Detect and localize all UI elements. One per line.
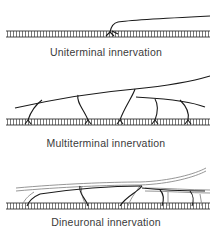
- innervation-diagram: [0, 0, 212, 229]
- uniterminal-panel: [6, 16, 210, 37]
- uniterminal-label: Uniterminal innervation: [0, 46, 212, 58]
- multiterminal-label: Multiterminal innervation: [0, 137, 212, 149]
- muscle-fiber: [6, 203, 210, 209]
- nerve-fiber: [15, 76, 210, 124]
- muscle-fiber: [6, 119, 210, 125]
- dineuronal-panel: [6, 168, 210, 209]
- multiterminal-panel: [6, 76, 210, 125]
- dineuronal-label: Dineuronal innervation: [0, 216, 212, 228]
